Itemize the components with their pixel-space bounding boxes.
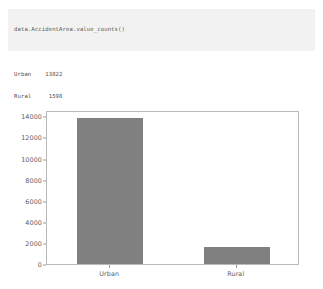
y-tick-label-6000: 6000: [2, 198, 42, 206]
output-line-rural: Rural 1598: [14, 93, 309, 100]
chart-output-area: 02000400060008000100001200014000 UrbanRu…: [0, 103, 323, 289]
bar-rural: [204, 247, 270, 264]
output-line-urban: Urban 13822: [14, 71, 309, 78]
y-tickmark-2000: [43, 243, 46, 244]
code-cell-1[interactable]: data.AccidentArea.value_counts(): [8, 9, 315, 51]
y-tick-label-12000: 12000: [2, 134, 42, 142]
code-cell-1-line-1: data.AccidentArea.value_counts(): [14, 26, 309, 33]
y-tickmark-6000: [43, 201, 46, 202]
y-tickmark-12000: [43, 138, 46, 139]
y-tick-label-8000: 8000: [2, 177, 42, 185]
y-tickmark-4000: [43, 222, 46, 223]
y-tick-label-10000: 10000: [2, 156, 42, 164]
y-tickmark-14000: [43, 117, 46, 118]
x-tickmark-rural: [236, 265, 237, 268]
bars-layer: [47, 112, 298, 264]
plot-area: [46, 111, 299, 265]
y-tickmark-10000: [43, 159, 46, 160]
bar-chart: 02000400060008000100001200014000 UrbanRu…: [0, 103, 323, 289]
y-tickmark-8000: [43, 180, 46, 181]
y-tickmark-0: [43, 265, 46, 266]
x-tick-label-rural: Rural: [227, 270, 244, 278]
y-tick-label-14000: 14000: [2, 113, 42, 121]
x-tick-label-urban: Urban: [99, 270, 119, 278]
x-tickmark-urban: [109, 265, 110, 268]
y-tick-label-4000: 4000: [2, 219, 42, 227]
y-tick-label-0: 0: [2, 261, 42, 269]
y-tick-label-2000: 2000: [2, 240, 42, 248]
bar-urban: [77, 118, 143, 264]
